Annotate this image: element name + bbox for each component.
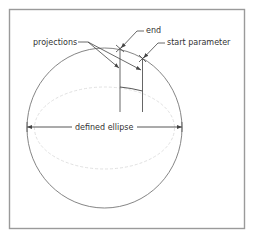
projections-label: projections: [33, 38, 77, 47]
start-parameter-label: start parameter: [167, 38, 231, 47]
ellipse-diagram: defined ellipse end start parameter proj…: [0, 0, 256, 240]
defined-ellipse-label: defined ellipse: [75, 123, 133, 132]
end-label: end: [146, 26, 161, 35]
